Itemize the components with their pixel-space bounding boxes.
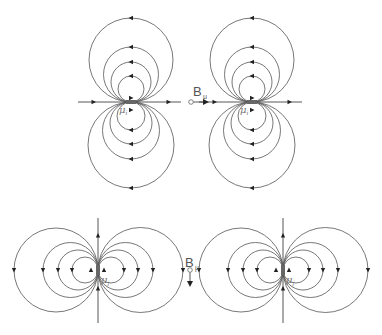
dipole-panel-bottom-right: μj [197, 218, 370, 323]
moment-label: μi [240, 104, 249, 116]
moment-label: μi [119, 104, 128, 116]
field-label-bottom: B μ [185, 255, 199, 287]
dipole-panel-top-left: μi [78, 16, 181, 190]
field-symbol: B [193, 84, 202, 99]
origin-circle-icon [188, 268, 193, 273]
field-subscript: μ [195, 264, 199, 272]
dipole-field-diagram: μi μi B μ μj μj B μ [0, 0, 382, 335]
arrow-down-icon [187, 281, 193, 287]
dipole-panel-bottom-left: μj [12, 218, 185, 323]
origin-circle-icon [189, 100, 194, 105]
dipole-panel-top-right: μi [199, 16, 302, 190]
field-label-top: B μ [189, 84, 209, 105]
